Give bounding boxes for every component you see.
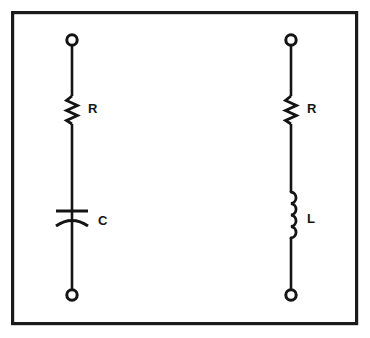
resistor-label-left: R xyxy=(88,101,98,116)
terminal-top-right[interactable] xyxy=(286,35,296,45)
circuit-diagram-figure: R C R L xyxy=(0,0,370,338)
circuit-diagram-canvas: R C R L xyxy=(0,0,370,338)
capacitor-label-left: C xyxy=(98,213,108,228)
resistor-symbol-right xyxy=(286,96,297,124)
inductor-symbol-right xyxy=(291,192,296,238)
rl-series-branch: R L xyxy=(286,35,318,300)
terminal-bottom-right[interactable] xyxy=(286,290,296,300)
diagram-frame xyxy=(13,13,357,324)
resistor-label-right: R xyxy=(307,101,317,116)
terminal-bottom-left[interactable] xyxy=(67,290,77,300)
rc-series-branch: R C xyxy=(56,35,108,300)
terminal-top-left[interactable] xyxy=(67,35,77,45)
inductor-label-right: L xyxy=(307,211,315,226)
resistor-symbol-left xyxy=(67,96,78,124)
